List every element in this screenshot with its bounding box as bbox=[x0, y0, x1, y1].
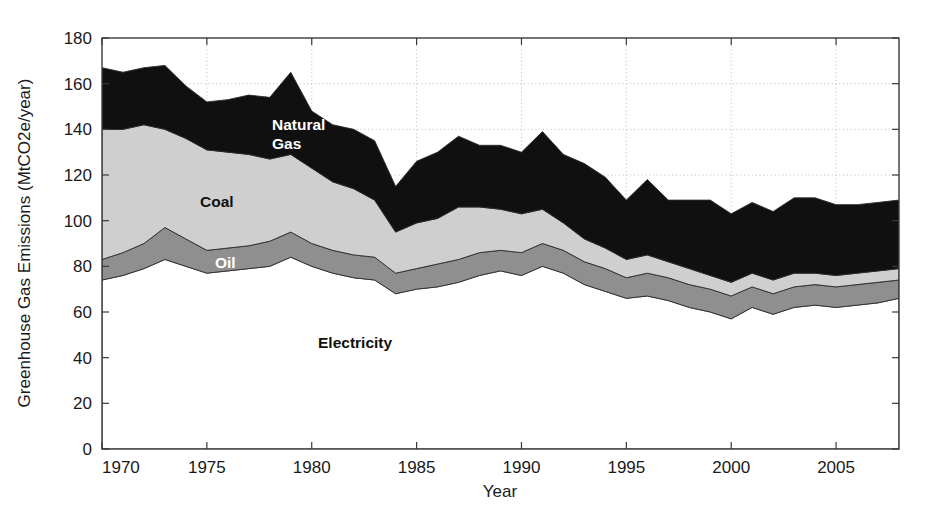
series-label-coal: Coal bbox=[200, 193, 234, 210]
y-tick-label: 80 bbox=[73, 257, 92, 276]
y-tick-label: 180 bbox=[64, 29, 92, 48]
series-label-electricity: Electricity bbox=[318, 334, 392, 351]
x-tick-label: 1995 bbox=[607, 458, 645, 477]
y-tick-label: 40 bbox=[73, 349, 92, 368]
y-tick-label: 120 bbox=[64, 166, 92, 185]
x-tick-label: 1980 bbox=[293, 458, 331, 477]
y-axis-title: Greenhouse Gas Emissions (MtCO2e/year) bbox=[15, 79, 34, 408]
x-tick-label: 2005 bbox=[817, 458, 855, 477]
stacked-area-chart: 0204060801001201401601801970197519801985… bbox=[0, 0, 947, 517]
x-tick-label: 1990 bbox=[503, 458, 541, 477]
x-axis-title: Year bbox=[483, 482, 518, 501]
x-tick-label: 2000 bbox=[712, 458, 750, 477]
y-tick-label: 20 bbox=[73, 394, 92, 413]
y-tick-label: 60 bbox=[73, 303, 92, 322]
x-tick-label: 1985 bbox=[398, 458, 436, 477]
x-tick-label: 1975 bbox=[188, 458, 226, 477]
x-tick-label: 1970 bbox=[102, 458, 140, 477]
y-tick-label: 160 bbox=[64, 75, 92, 94]
y-tick-label: 100 bbox=[64, 212, 92, 231]
y-tick-label: 140 bbox=[64, 120, 92, 139]
chart-figure: 0204060801001201401601801970197519801985… bbox=[0, 0, 947, 517]
y-tick-label: 0 bbox=[83, 440, 92, 459]
series-label-oil: Oil bbox=[215, 254, 236, 271]
